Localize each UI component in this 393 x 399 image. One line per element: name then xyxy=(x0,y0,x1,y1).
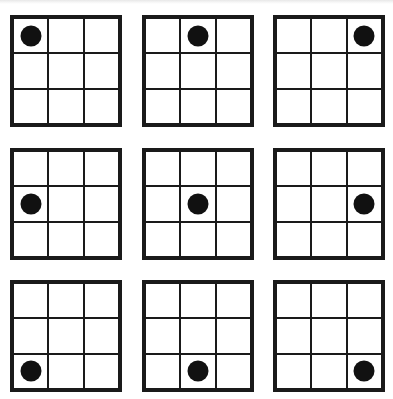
grid-cell xyxy=(180,18,215,53)
grid-cell xyxy=(145,186,180,221)
grid-cell xyxy=(145,18,180,53)
grid-cell xyxy=(216,283,251,318)
grid-cell xyxy=(347,222,382,257)
grid-cell xyxy=(13,89,48,124)
grid-cell xyxy=(145,283,180,318)
grid-cell xyxy=(276,186,311,221)
grid-cell xyxy=(13,186,48,221)
grid-cell xyxy=(13,283,48,318)
grid-cell xyxy=(180,151,215,186)
grid-cell xyxy=(180,53,215,88)
grid-top-right xyxy=(273,15,385,127)
grid-cell xyxy=(84,89,119,124)
grid-cell xyxy=(311,186,346,221)
grid-cell xyxy=(276,151,311,186)
grid-bottom-left xyxy=(10,280,122,392)
grid-cell xyxy=(276,354,311,389)
grid-cell xyxy=(311,89,346,124)
dot-icon xyxy=(20,361,41,382)
grid-cell xyxy=(216,222,251,257)
dot-icon xyxy=(20,193,41,214)
grid-cell xyxy=(180,283,215,318)
grid-cell xyxy=(48,283,83,318)
grid-cell xyxy=(216,186,251,221)
grid-cell xyxy=(216,53,251,88)
grid-cell xyxy=(13,151,48,186)
grid-bottom-center xyxy=(142,280,254,392)
grid-cell xyxy=(145,318,180,353)
grid-cell xyxy=(13,354,48,389)
grid-cell xyxy=(180,186,215,221)
grid-middle-left xyxy=(10,148,122,260)
grid-bottom-right xyxy=(273,280,385,392)
grid-cell xyxy=(84,283,119,318)
grid-cell xyxy=(276,18,311,53)
grid-cell xyxy=(145,354,180,389)
grid-cell xyxy=(145,151,180,186)
grid-cell xyxy=(180,89,215,124)
grid-cell xyxy=(311,53,346,88)
grid-cell xyxy=(84,53,119,88)
grid-cell xyxy=(48,89,83,124)
grid-cell xyxy=(13,318,48,353)
grid-middle-center xyxy=(142,148,254,260)
grid-cell xyxy=(48,186,83,221)
grid-middle-right xyxy=(273,148,385,260)
grid-cell xyxy=(347,151,382,186)
grid-cell xyxy=(311,222,346,257)
grid-cell xyxy=(311,283,346,318)
dot-icon xyxy=(187,193,208,214)
grid-cell xyxy=(145,89,180,124)
grid-cell xyxy=(347,89,382,124)
grid-cell xyxy=(48,354,83,389)
grid-top-left xyxy=(10,15,122,127)
grid-cell xyxy=(48,53,83,88)
grid-cell xyxy=(48,18,83,53)
dot-icon xyxy=(187,361,208,382)
dot-icon xyxy=(187,25,208,46)
grid-cell xyxy=(347,53,382,88)
grid-cell xyxy=(347,18,382,53)
grid-cell xyxy=(347,354,382,389)
grid-cell xyxy=(48,318,83,353)
grid-cell xyxy=(347,318,382,353)
grid-cell xyxy=(180,318,215,353)
grid-cell xyxy=(276,318,311,353)
grid-cell xyxy=(216,89,251,124)
grid-top-center xyxy=(142,15,254,127)
grid-cell xyxy=(180,222,215,257)
dot-icon xyxy=(20,25,41,46)
dot-icon xyxy=(354,193,375,214)
grid-cell xyxy=(13,18,48,53)
grid-cell xyxy=(311,354,346,389)
grid-cell xyxy=(311,18,346,53)
grid-cell xyxy=(145,53,180,88)
grid-cell xyxy=(216,318,251,353)
grid-cell xyxy=(347,283,382,318)
grid-cell xyxy=(13,53,48,88)
grid-cell xyxy=(311,318,346,353)
grid-cell xyxy=(145,222,180,257)
cropped-text-remnant xyxy=(0,0,393,4)
grid-cell xyxy=(84,222,119,257)
grid-cell xyxy=(48,151,83,186)
grid-cell xyxy=(13,222,48,257)
grid-cell xyxy=(347,186,382,221)
grid-cell xyxy=(48,222,83,257)
grid-cell xyxy=(84,318,119,353)
grid-cell xyxy=(216,151,251,186)
grid-cell xyxy=(84,18,119,53)
grid-cell xyxy=(180,354,215,389)
grid-cell xyxy=(276,283,311,318)
grid-cell xyxy=(84,354,119,389)
grid-cell xyxy=(276,89,311,124)
grid-cell xyxy=(276,53,311,88)
grid-cell xyxy=(216,18,251,53)
dot-icon xyxy=(354,361,375,382)
grid-cell xyxy=(276,222,311,257)
grid-cell xyxy=(84,186,119,221)
grid-cell xyxy=(216,354,251,389)
grid-cell xyxy=(84,151,119,186)
dot-icon xyxy=(354,25,375,46)
grid-cell xyxy=(311,151,346,186)
